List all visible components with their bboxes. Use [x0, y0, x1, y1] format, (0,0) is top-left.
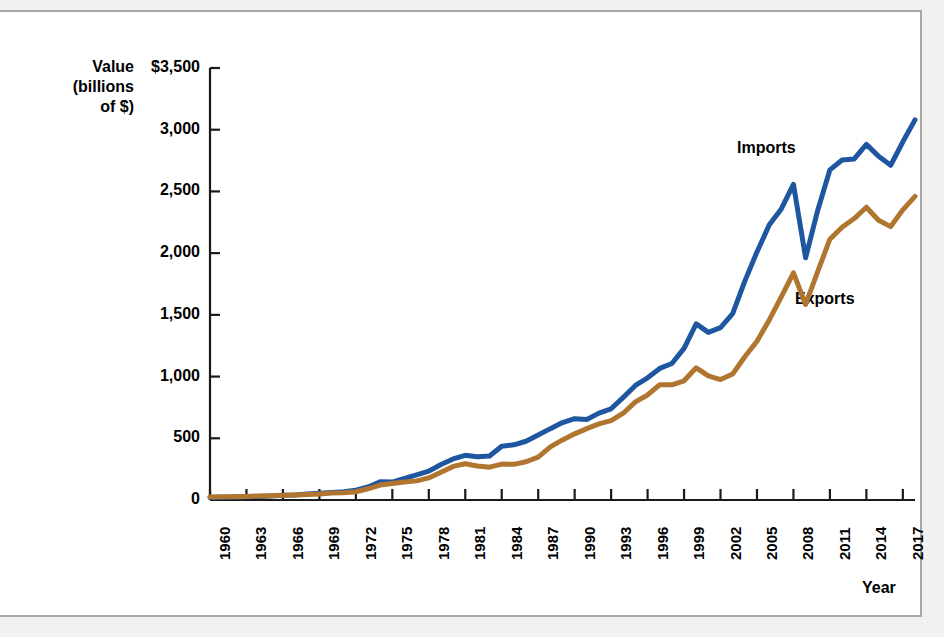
- axes-layer: [210, 68, 915, 500]
- series-layer: [210, 120, 915, 497]
- plot-canvas: [0, 0, 944, 637]
- figure-root: Value (billions of $) Year Imports Expor…: [0, 0, 944, 637]
